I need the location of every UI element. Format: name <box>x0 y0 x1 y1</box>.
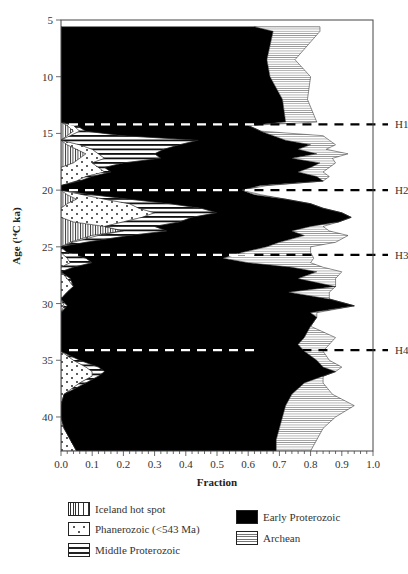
horizontal-lines-swatch-icon <box>68 543 90 557</box>
legend-label: Iceland hot spot <box>95 503 165 515</box>
dots-swatch-icon <box>68 522 90 536</box>
legend-item-phanerozoic: Phanerozoic (<543 Ma) <box>68 522 200 536</box>
legend-item-archean: Archean <box>236 531 300 545</box>
legend-label: Middle Proterozoic <box>95 544 180 556</box>
legend-item-iceland: Iceland hot spot <box>68 502 165 516</box>
legend-label: Early Proterozoic <box>263 511 340 523</box>
legend-item-middle-proterozoic: Middle Proterozoic <box>68 543 180 557</box>
legend-label: Archean <box>263 532 300 544</box>
fine-lines-swatch-icon <box>236 531 258 545</box>
solid-black-swatch-icon <box>236 510 258 524</box>
legend: Iceland hot spot Phanerozoic (<543 Ma) M… <box>0 0 408 574</box>
legend-label: Phanerozoic (<543 Ma) <box>95 523 200 535</box>
legend-item-early-proterozoic: Early Proterozoic <box>236 510 340 524</box>
vertical-lines-swatch-icon <box>68 502 90 516</box>
